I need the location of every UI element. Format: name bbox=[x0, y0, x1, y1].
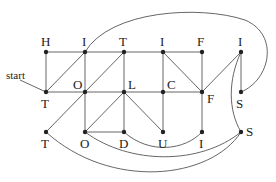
node-dot bbox=[239, 130, 243, 134]
node-n5: F bbox=[197, 34, 204, 54]
node-n15: D bbox=[119, 130, 128, 151]
node-dot bbox=[161, 90, 165, 94]
node-letter: T bbox=[119, 34, 127, 49]
node-dot bbox=[44, 130, 48, 134]
node-n3: T bbox=[119, 34, 127, 54]
node-n16: U bbox=[158, 130, 168, 151]
edge-n8-n13 bbox=[46, 92, 85, 132]
node-dot bbox=[44, 50, 48, 54]
node-n7: T bbox=[41, 90, 49, 111]
node-letter: O bbox=[73, 77, 82, 92]
node-letter: T bbox=[41, 96, 49, 111]
node-letter: D bbox=[119, 136, 128, 151]
node-dot bbox=[44, 90, 48, 94]
node-dot bbox=[83, 130, 87, 134]
node-dot bbox=[239, 90, 243, 94]
node-n12: S bbox=[236, 90, 243, 111]
node-n6: I bbox=[238, 34, 243, 54]
edge-n3-n8 bbox=[85, 52, 124, 92]
node-n18: S bbox=[239, 124, 253, 139]
node-letter: H bbox=[41, 34, 50, 49]
node-n4: I bbox=[160, 34, 165, 54]
node-dot bbox=[122, 130, 126, 134]
start-pointer-line bbox=[20, 80, 46, 92]
node-n14: O bbox=[80, 130, 89, 151]
node-dot bbox=[83, 50, 87, 54]
node-letter: I bbox=[82, 34, 86, 49]
edge-n13-n18 bbox=[46, 132, 241, 172]
edge-n9-n16 bbox=[124, 92, 163, 132]
node-letter: F bbox=[197, 34, 204, 49]
node-letter: I bbox=[238, 34, 242, 49]
node-n13: T bbox=[41, 130, 49, 151]
edge-n6-n11 bbox=[202, 52, 241, 92]
start-label: start bbox=[6, 69, 25, 81]
node-letter: I bbox=[199, 136, 203, 151]
node-dot bbox=[200, 130, 204, 134]
node-dot bbox=[122, 50, 126, 54]
node-letter: F bbox=[207, 91, 214, 106]
node-letter: T bbox=[41, 136, 49, 151]
node-dot bbox=[200, 90, 204, 94]
node-letter: S bbox=[236, 96, 243, 111]
node-letter: S bbox=[246, 124, 253, 139]
word-graph-diagram: start HITIFITOLCFSTODUIS bbox=[0, 0, 276, 182]
edge-n9-n14 bbox=[85, 92, 124, 132]
node-dot bbox=[161, 50, 165, 54]
node-n1: H bbox=[41, 34, 50, 54]
node-dot bbox=[200, 50, 204, 54]
node-n2: I bbox=[82, 34, 87, 54]
node-dot bbox=[239, 50, 243, 54]
node-dot bbox=[161, 130, 165, 134]
node-dot bbox=[122, 90, 126, 94]
node-dot bbox=[83, 90, 87, 94]
node-n17: I bbox=[199, 130, 204, 151]
node-letter: C bbox=[167, 77, 176, 92]
node-letter: L bbox=[128, 77, 136, 92]
node-letter: O bbox=[80, 136, 89, 151]
node-letter: I bbox=[160, 34, 164, 49]
node-letter: U bbox=[158, 136, 168, 151]
